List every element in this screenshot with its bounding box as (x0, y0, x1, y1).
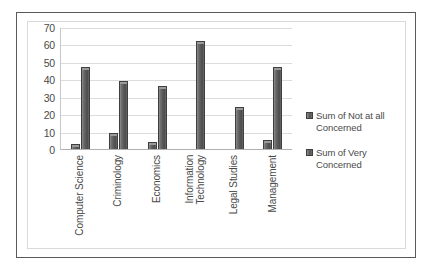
bar-group (215, 28, 254, 149)
bars-layer (61, 28, 292, 149)
bar-group (100, 28, 139, 149)
bar[interactable] (158, 86, 167, 149)
y-axis-tick: 50 (44, 58, 55, 69)
bar[interactable] (119, 81, 128, 149)
y-axis-tick: 40 (44, 75, 55, 86)
x-axis-label-line: Information (184, 155, 195, 205)
x-axis-label-line: Economics (151, 155, 162, 203)
bar-group (138, 28, 177, 149)
chart-plot-area: 706050403020100 Computer ScienceCriminol… (27, 21, 406, 249)
x-axis-category: Criminology (99, 152, 138, 242)
x-axis-category-label: Economics (151, 155, 162, 203)
chart-body: 706050403020100 Computer ScienceCriminol… (34, 28, 299, 243)
x-axis-label-line: Computer Science (74, 155, 85, 236)
legend-swatch-icon (306, 112, 313, 119)
bar[interactable] (109, 133, 118, 149)
figure-caption (58, 262, 388, 274)
bar-group (254, 28, 293, 149)
legend-label: Sum of Not at allConcerned (316, 110, 385, 134)
x-axis-category: Computer Science (60, 152, 99, 242)
bar[interactable] (235, 107, 244, 149)
figure-frame: 706050403020100 Computer ScienceCriminol… (16, 12, 416, 258)
x-axis: Computer ScienceCriminologyEconomicsInfo… (60, 152, 292, 242)
x-axis-category: InformationTechnology (176, 152, 215, 242)
legend-label: Sum of VeryConcerned (316, 147, 367, 171)
legend-item[interactable]: Sum of Not at allConcerned (306, 110, 402, 134)
x-axis-label-line: Criminology (112, 155, 123, 207)
x-axis-category-label: Management (267, 155, 278, 212)
bar-group (177, 28, 216, 149)
bar[interactable] (263, 140, 272, 149)
x-axis-category: Legal Studies (215, 152, 254, 242)
legend-swatch-icon (306, 149, 313, 156)
x-axis-label-line: Management (267, 155, 278, 212)
chart-legend: Sum of Not at allConcernedSum of VeryCon… (306, 110, 402, 184)
x-axis-category-label: Criminology (112, 155, 123, 207)
legend-item[interactable]: Sum of VeryConcerned (306, 147, 402, 171)
y-axis-tick: 0 (49, 145, 55, 156)
bar[interactable] (148, 142, 157, 149)
x-axis-label-line: Legal Studies (228, 155, 239, 214)
x-axis-category: Management (253, 152, 292, 242)
y-axis-tick: 60 (44, 40, 55, 51)
y-axis-tick: 20 (44, 110, 55, 121)
bar[interactable] (196, 41, 205, 149)
bar-group (61, 28, 100, 149)
y-axis-tick: 70 (44, 23, 55, 34)
bar[interactable] (273, 67, 282, 149)
plot-box (60, 28, 292, 150)
bar[interactable] (81, 67, 90, 149)
x-axis-category-label: Legal Studies (228, 155, 239, 214)
bar[interactable] (71, 144, 80, 149)
y-axis-tick: 30 (44, 92, 55, 103)
x-axis-category: Economics (137, 152, 176, 242)
x-axis-category-label: Computer Science (74, 155, 85, 236)
y-axis: 706050403020100 (34, 28, 58, 150)
y-axis-tick: 10 (44, 127, 55, 138)
x-axis-category-label: InformationTechnology (184, 155, 206, 205)
x-axis-label-line: Technology (195, 155, 206, 205)
